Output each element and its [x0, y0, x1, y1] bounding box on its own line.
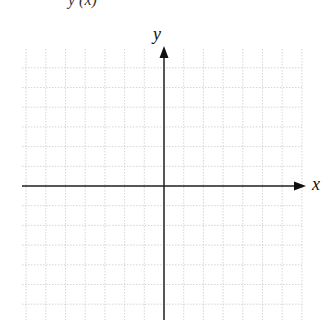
y-axis-label: y	[153, 24, 161, 45]
grid-lines	[22, 49, 302, 320]
x-axis-label: x	[312, 174, 320, 195]
x-axis-arrow-icon	[294, 182, 306, 191]
coordinate-plane	[0, 0, 332, 320]
y-axis-arrow-icon	[160, 46, 169, 58]
